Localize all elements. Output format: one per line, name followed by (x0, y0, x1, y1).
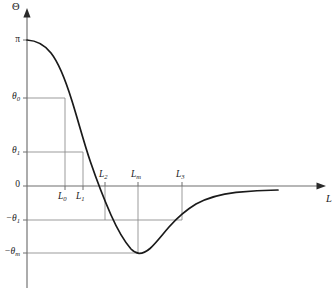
y-axis-arrowhead (23, 8, 30, 18)
figure-container: Θ L π θ0 θ1 0 −θ1 −θm L0 L1 L2 Lm L3 (0, 0, 336, 298)
axes-group (23, 8, 326, 288)
plot-canvas (0, 0, 336, 298)
x-axis-arrowhead (317, 182, 327, 189)
y-tick-marks (23, 40, 27, 253)
guide-lines (27, 98, 182, 253)
